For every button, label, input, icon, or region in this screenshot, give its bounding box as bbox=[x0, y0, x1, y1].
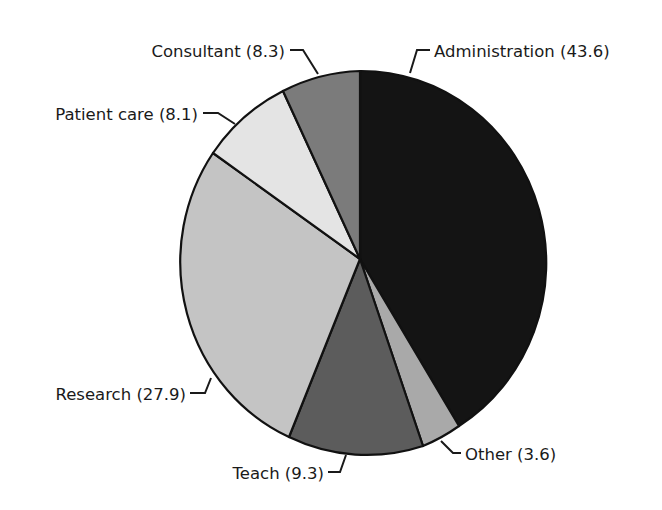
leader-teach bbox=[328, 455, 346, 472]
leader-other bbox=[441, 441, 461, 453]
leader-consultant bbox=[290, 50, 318, 74]
leader-research bbox=[190, 378, 211, 393]
label-teach: Teach (9.3) bbox=[232, 464, 324, 483]
label-consultant: Consultant (8.3) bbox=[151, 42, 285, 61]
leader-patient-care bbox=[203, 113, 235, 124]
label-other: Other (3.6) bbox=[465, 445, 556, 464]
pie-slices bbox=[180, 71, 546, 455]
label-research: Research (27.9) bbox=[55, 385, 186, 404]
pie-chart: Consultant (8.3) Administration (43.6) P… bbox=[0, 0, 662, 510]
label-administration: Administration (43.6) bbox=[434, 42, 610, 61]
label-patient-care: Patient care (8.1) bbox=[55, 105, 198, 124]
leader-administration bbox=[410, 50, 430, 73]
